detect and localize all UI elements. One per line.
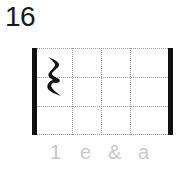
left-barline (32, 48, 37, 135)
right-barline (168, 48, 173, 135)
beat-label-and: & (108, 141, 121, 163)
exercise-number: 16 (5, 3, 35, 31)
grid-line-row-2 (37, 106, 168, 107)
grid-line-top (37, 48, 168, 49)
grid-line-bottom (37, 134, 168, 135)
grid-line-col-1 (72, 48, 73, 135)
beat-label-1: 1 (50, 141, 61, 163)
beat-label-a: a (138, 141, 149, 163)
beat-labels: 1 e & a (0, 141, 180, 163)
quarter-rest-icon (44, 55, 66, 101)
beat-label-e: e (80, 141, 91, 163)
rhythm-grid (32, 48, 173, 135)
grid-line-col-2 (101, 48, 102, 135)
grid-line-col-3 (130, 48, 131, 135)
